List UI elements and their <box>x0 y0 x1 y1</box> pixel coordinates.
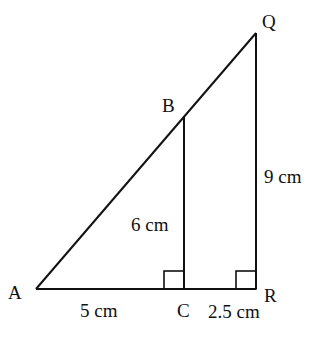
point-label-Q: Q <box>262 11 276 32</box>
measure-QR: 9 cm <box>264 166 302 187</box>
similar-triangles-diagram: A B C Q R 5 cm 2.5 cm 6 cm 9 cm <box>0 0 330 338</box>
measure-CR: 2.5 cm <box>208 301 260 322</box>
right-angle-marker-R <box>236 271 256 289</box>
point-label-A: A <box>8 282 22 303</box>
point-label-C: C <box>177 300 190 321</box>
measure-BC: 6 cm <box>131 214 169 235</box>
point-label-R: R <box>264 285 277 306</box>
hypotenuse-AQ <box>36 33 256 289</box>
point-label-B: B <box>162 95 175 116</box>
measure-AC: 5 cm <box>80 300 118 321</box>
right-angle-marker-C <box>164 271 184 289</box>
